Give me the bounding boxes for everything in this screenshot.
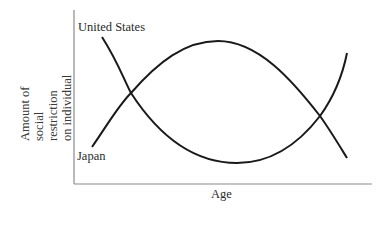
y-axis-label-line-4: on individual (60, 75, 74, 141)
y-axis-label: Amount of social restriction on individu… (18, 75, 74, 141)
y-axis-label-line-2: social (32, 75, 46, 141)
japan-line (92, 41, 347, 158)
y-axis-label-line-1: Amount of (18, 75, 32, 141)
us-line (102, 37, 347, 163)
us-series-label: United States (78, 21, 145, 34)
x-axis-label: Age (211, 188, 232, 201)
japan-series-label: Japan (77, 150, 105, 163)
y-axis-label-line-3: restriction (46, 75, 60, 141)
